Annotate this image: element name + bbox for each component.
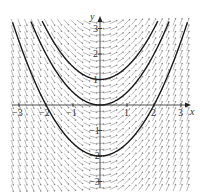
slope-segment <box>145 45 149 51</box>
slope-segment <box>124 147 129 152</box>
slope-arrowhead <box>89 48 91 50</box>
slope-segment <box>138 58 142 64</box>
slope-segment <box>110 135 116 138</box>
slope-segment <box>51 51 55 57</box>
slope-arrowhead <box>26 171 28 173</box>
slope-segment <box>124 166 129 171</box>
slope-segment <box>180 25 182 32</box>
slope-segment <box>103 21 110 23</box>
slope-arrowhead <box>168 31 170 33</box>
slope-segment <box>166 115 169 121</box>
slope-segment <box>124 96 129 101</box>
slope-arrowhead <box>61 88 63 90</box>
slope-arrowhead <box>33 184 35 186</box>
slope-arrowhead <box>142 57 144 59</box>
slope-segment <box>24 114 27 121</box>
slope-arrowhead <box>61 56 63 58</box>
slope-arrowhead <box>155 18 157 20</box>
slope-segment <box>83 72 89 75</box>
slope-arrowhead <box>61 101 63 103</box>
slope-segment <box>159 44 162 50</box>
slope-segment <box>24 146 27 153</box>
slope-segment <box>51 166 55 172</box>
slope-arrowhead <box>109 40 111 42</box>
slope-segment <box>159 127 162 133</box>
slope-segment <box>103 187 110 189</box>
slope-arrowhead <box>61 139 63 141</box>
slope-segment <box>77 77 83 81</box>
slope-arrowhead <box>54 114 56 116</box>
slope-arrowhead <box>19 57 21 59</box>
slope-arrowhead <box>161 120 163 122</box>
slope-segment <box>145 19 149 25</box>
slope-arrowhead <box>168 120 170 122</box>
slope-segment <box>145 147 149 153</box>
slope-arrowhead <box>175 88 177 90</box>
slope-segment <box>103 98 110 100</box>
slope-segment <box>110 59 116 62</box>
slope-segment <box>131 51 136 56</box>
slope-arrowhead <box>19 159 21 161</box>
slope-arrowhead <box>181 158 183 160</box>
slope-arrowhead <box>19 171 21 173</box>
slope-arrowhead <box>135 89 137 91</box>
slope-arrowhead <box>188 171 190 173</box>
slope-arrowhead <box>68 24 70 26</box>
slope-arrowhead <box>109 148 111 150</box>
slope-arrowhead <box>13 120 15 122</box>
slope-arrowhead <box>13 139 15 141</box>
slope-segment <box>77 135 83 139</box>
slope-segment <box>38 64 41 70</box>
slope-arrowhead <box>175 120 177 122</box>
slope-segment <box>117 46 123 50</box>
slope-arrowhead <box>129 134 131 136</box>
slope-arrowhead <box>181 165 183 167</box>
slope-arrowhead <box>175 146 177 148</box>
slope-arrowhead <box>54 126 56 128</box>
slope-segment <box>70 154 75 159</box>
slope-segment <box>103 130 110 132</box>
slope-arrowhead <box>40 88 42 90</box>
slope-segment <box>159 134 162 140</box>
slope-arrowhead <box>148 127 150 129</box>
slope-arrowhead <box>13 57 15 59</box>
slope-arrowhead <box>129 57 131 59</box>
slope-arrowhead <box>47 190 49 192</box>
slope-arrowhead <box>122 102 124 104</box>
slope-segment <box>83 84 89 87</box>
slope-arrowhead <box>155 178 157 180</box>
slope-arrowhead <box>33 127 35 129</box>
slope-segment <box>138 109 142 115</box>
slope-arrowhead <box>116 135 118 137</box>
slope-arrowhead <box>161 184 163 186</box>
slope-arrowhead <box>116 141 118 143</box>
slope-arrowhead <box>188 43 190 45</box>
slope-arrowhead <box>122 140 124 142</box>
slope-segment <box>117 26 123 30</box>
slope-arrowhead <box>148 18 150 20</box>
slope-arrowhead <box>54 94 56 96</box>
slope-segment <box>51 179 55 185</box>
slope-segment <box>103 142 110 144</box>
slope-arrowhead <box>33 133 35 135</box>
slope-arrowhead <box>82 170 84 172</box>
slope-arrowhead <box>68 94 70 96</box>
slope-arrowhead <box>61 82 63 84</box>
slope-segment <box>145 51 149 57</box>
slope-arrowhead <box>61 177 63 179</box>
slope-segment <box>44 38 47 44</box>
slope-arrowhead <box>82 81 84 83</box>
slope-segment <box>57 153 61 159</box>
slope-segment <box>64 45 69 50</box>
slope-segment <box>77 160 83 164</box>
slope-arrowhead <box>175 18 177 20</box>
slope-arrowhead <box>26 25 28 27</box>
slope-segment <box>44 121 47 127</box>
slope-segment <box>173 95 176 102</box>
x-tick-label: 3 <box>178 107 183 118</box>
slope-arrowhead <box>155 69 157 71</box>
slope-arrowhead <box>61 133 63 135</box>
slope-segment <box>57 160 61 166</box>
slope-arrowhead <box>89 55 91 57</box>
slope-arrowhead <box>40 126 42 128</box>
